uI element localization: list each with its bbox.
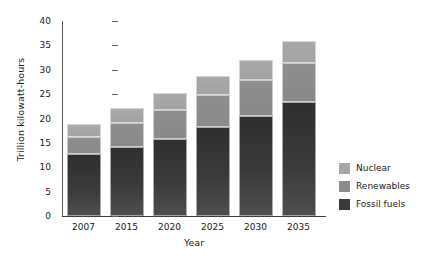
bar-segment-fossil-fuels [196,127,230,216]
chart-legend: NuclearRenewablesFossil fuels [339,160,434,214]
bar-segment-fossil-fuels [153,139,187,217]
bar-2035 [282,21,316,216]
bar-2030 [239,21,273,216]
legend-item-renewables[interactable]: Renewables [339,178,434,194]
bar-segment-fossil-fuels [110,147,144,216]
legend-swatch-icon [339,181,350,192]
bar-segment-renewables [196,95,230,128]
bar-segment-renewables [153,110,187,138]
bar-segment-nuclear [282,41,316,63]
x-tick-label-2025: 2025 [201,222,224,232]
bar-segment-nuclear [239,60,273,80]
bar-segment-nuclear [67,124,101,136]
plot-area [62,21,320,216]
x-tick-label-2015: 2015 [115,222,138,232]
legend-item-nuclear[interactable]: Nuclear [339,160,434,176]
bar-segment-renewables [282,63,316,102]
x-tick-label-2020: 2020 [158,222,181,232]
y-tick-label: 10 [40,162,56,172]
x-axis-line [62,216,326,217]
bar-segment-renewables [239,80,273,116]
bar-segment-nuclear [196,76,230,95]
bar-segment-nuclear [110,108,144,123]
x-axis-title: Year [62,237,326,248]
bar-segment-fossil-fuels [67,154,101,216]
x-tick-label-2035: 2035 [287,222,310,232]
y-tick-label: 5 [45,187,56,197]
bar-segment-fossil-fuels [239,116,273,216]
y-tick-label: 35 [40,40,56,50]
bar-segment-nuclear [153,93,187,111]
legend-label: Nuclear [356,163,391,173]
x-tick-label-2007: 2007 [72,222,95,232]
y-axis-title: Trillion kilowatt-hours [10,0,32,218]
bar-2007 [67,21,101,216]
bar-segment-renewables [67,137,101,154]
bar-2015 [110,21,144,216]
y-tick-mark [112,216,118,217]
legend-swatch-icon [339,199,350,210]
y-axis-title-text: Trillion kilowatt-hours [16,57,27,161]
bar-2025 [196,21,230,216]
x-tick-label-2030: 2030 [244,222,267,232]
bar-segment-renewables [110,123,144,147]
legend-label: Renewables [356,181,410,191]
bar-2020 [153,21,187,216]
legend-swatch-icon [339,163,350,174]
legend-label: Fossil fuels [356,199,405,209]
y-tick-label: 30 [40,65,56,75]
stacked-bar-chart-figure: Trillion kilowatt-hours 0510152025303540… [0,0,436,258]
y-tick-label: 40 [40,16,56,26]
y-tick-label: 15 [40,138,56,148]
y-tick-label: 0 [45,211,56,221]
legend-item-fossil-fuels[interactable]: Fossil fuels [339,196,434,212]
bar-segment-fossil-fuels [282,102,316,216]
y-tick-label: 25 [40,89,56,99]
y-tick-label: 20 [40,114,56,124]
